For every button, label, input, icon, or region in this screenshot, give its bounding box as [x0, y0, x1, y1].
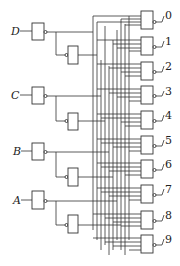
signal-bus	[93, 16, 141, 255]
input-stage-c: C	[11, 87, 105, 130]
buffer-gate-c	[32, 87, 44, 104]
output-gate-9: 9	[141, 233, 172, 253]
output-gate-3: 3	[141, 85, 172, 104]
output-gate-0: 0	[141, 9, 172, 29]
buffer-gate-b	[32, 143, 44, 160]
inverter-gate-c	[68, 113, 78, 130]
output-gate-8: 8	[141, 209, 172, 229]
output-gate-1: 1	[141, 35, 172, 55]
buffer-gate-a	[32, 191, 44, 209]
output-label-9: 9	[165, 233, 172, 246]
inverter-gate-d	[68, 46, 78, 64]
output-label-7: 7	[165, 183, 172, 196]
input-label-a: A	[12, 194, 21, 207]
buffer-gate-d	[32, 23, 44, 40]
inverter-gate-a	[68, 215, 78, 233]
input-label-c: C	[11, 89, 20, 102]
output-gate-5: 5	[141, 134, 172, 154]
output-gate-2: 2	[141, 60, 172, 80]
output-label-5: 5	[165, 134, 172, 147]
output-gate-4: 4	[141, 109, 172, 129]
input-stage-b: B	[12, 143, 113, 186]
inverter-gate-b	[68, 168, 78, 186]
output-label-2: 2	[165, 60, 172, 73]
decoder-circuit-diagram: D C B A	[0, 0, 180, 266]
output-gate-6: 6	[141, 158, 172, 178]
output-gate-7: 7	[141, 183, 172, 203]
output-label-6: 6	[165, 158, 172, 171]
input-stage-d: D	[10, 23, 97, 64]
output-label-3: 3	[165, 85, 172, 98]
output-label-0: 0	[165, 9, 172, 22]
output-label-8: 8	[165, 209, 172, 222]
output-label-1: 1	[165, 35, 172, 48]
input-label-d: D	[10, 25, 20, 38]
output-label-4: 4	[165, 109, 172, 122]
input-label-b: B	[12, 145, 21, 158]
